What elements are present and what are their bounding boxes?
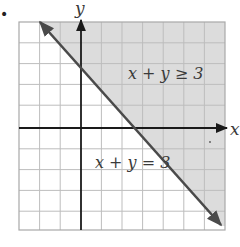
region-label: x + y ≥ 3 [128,64,203,83]
x-axis-label: x [230,119,240,139]
exercise-bullet: • [0,6,8,22]
boundary-line-label: x + y = 3 [95,153,170,172]
y-axis-label: y [74,0,85,18]
inequality-graph: • y x x + y ≥ 3 x + y = 3 [0,0,240,247]
speck [209,141,211,143]
